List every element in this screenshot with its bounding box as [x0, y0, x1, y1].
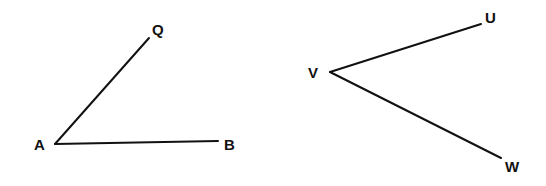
point-label-q: Q: [152, 21, 164, 38]
vertex-label-v: V: [308, 64, 318, 81]
canvas-background: [0, 0, 546, 186]
point-label-u: U: [485, 9, 496, 26]
point-label-b: B: [224, 136, 235, 153]
point-label-w: W: [505, 158, 520, 175]
angle-diagram-canvas: A Q B V U W: [0, 0, 546, 186]
vertex-label-a: A: [34, 136, 45, 153]
